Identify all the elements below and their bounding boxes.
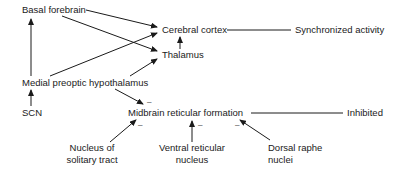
sleep-regulation-diagram: Basal forebrain Cerebral cortex Synchron… — [0, 0, 404, 176]
edge-basal-to-cortex — [86, 10, 157, 27]
node-inhibited: Inhibited — [347, 107, 383, 119]
node-dorsal-raphe-nuclei: Dorsal raphe nuclei — [268, 142, 322, 166]
node-ventral-reticular-nucleus: Ventral reticular nucleus — [155, 142, 229, 166]
inhibitory-sign-nst: – — [138, 121, 142, 129]
node-basal-forebrain: Basal forebrain — [22, 4, 86, 16]
node-nucleus-of-solitary-tract: Nucleus of solitary tract — [62, 142, 122, 166]
node-midbrain-reticular-formation: Midbrain reticular formation — [128, 107, 243, 119]
node-cerebral-cortex: Cerebral cortex — [162, 24, 227, 36]
inhibitory-sign-vrn: – — [198, 121, 202, 129]
node-dorsal-raphe-nuclei-line1: Dorsal raphe — [268, 142, 322, 154]
node-medial-preoptic-hypothalamus: Medial preoptic hypothalamus — [22, 77, 148, 89]
edge-mph-to-thalamus — [130, 59, 157, 76]
node-ventral-reticular-nucleus-line2: nucleus — [155, 154, 229, 166]
node-nucleus-of-solitary-tract-line2: solitary tract — [62, 154, 122, 166]
inhibitory-sign-drn: – — [235, 121, 239, 129]
edge-mph-to-mrf — [115, 89, 143, 104]
node-synchronized-activity: Synchronized activity — [295, 24, 384, 36]
node-dorsal-raphe-nuclei-line2: nuclei — [268, 154, 322, 166]
inhibitory-sign-mph: – — [147, 98, 151, 106]
edge-basal-to-thalamus — [62, 16, 157, 51]
node-nucleus-of-solitary-tract-line1: Nucleus of — [62, 142, 122, 154]
node-scn: SCN — [22, 107, 42, 119]
edge-drn-to-mrf — [240, 120, 270, 140]
node-ventral-reticular-nucleus-line1: Ventral reticular — [155, 142, 229, 154]
edge-nst-to-mrf — [110, 120, 136, 142]
node-thalamus: Thalamus — [162, 49, 204, 61]
